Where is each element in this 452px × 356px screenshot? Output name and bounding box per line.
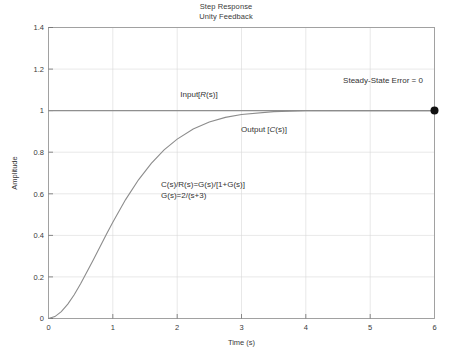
y-axis-title: Amplitude [10,156,19,189]
output-annotation-label: Output [C(s)] [241,125,287,134]
y-tick-label: 0.4 [34,231,44,240]
x-tick-label: 4 [304,323,308,332]
x-tick-label: 2 [175,323,179,332]
x-tick-label: 3 [239,323,243,332]
x-axis-title: Time (s) [228,338,256,347]
steady-state-endpoint-marker [431,107,439,115]
steady-state-error-label: Steady-State Error = 0 [343,76,423,85]
y-tick-label: 1 [40,106,44,115]
step-response-chart: Step Response Unity Feedback [0,0,452,356]
x-tick-label: 6 [432,323,436,332]
y-tick-labels: 0 0.2 0.4 0.6 0.8 1 1.2 1.4 [34,23,44,323]
y-tick-label: 1.4 [34,23,44,32]
y-tick-label: 0 [40,314,44,323]
x-tick-labels: 0 1 2 3 4 5 6 [46,323,436,332]
x-tick-label: 1 [111,323,115,332]
x-tick-label: 5 [368,323,372,332]
transfer-function-equation-1: C(s)/R(s)=G(s)/[1+G(s)] [161,180,245,189]
input-annotation-label: Input[R(s)] [180,90,217,99]
y-tick-label: 0.6 [34,190,44,199]
plot-area [49,28,435,319]
transfer-function-equation-2: G(s)=2/(s+3) [161,191,207,200]
chart-svg: 0 0.2 0.4 0.6 0.8 1 1.2 1.4 0 1 2 3 4 5 … [0,0,452,356]
x-tick-label: 0 [46,323,50,332]
y-tick-label: 1.2 [34,65,44,74]
y-tick-label: 0.2 [34,273,44,282]
y-tick-label: 0.8 [34,148,44,157]
